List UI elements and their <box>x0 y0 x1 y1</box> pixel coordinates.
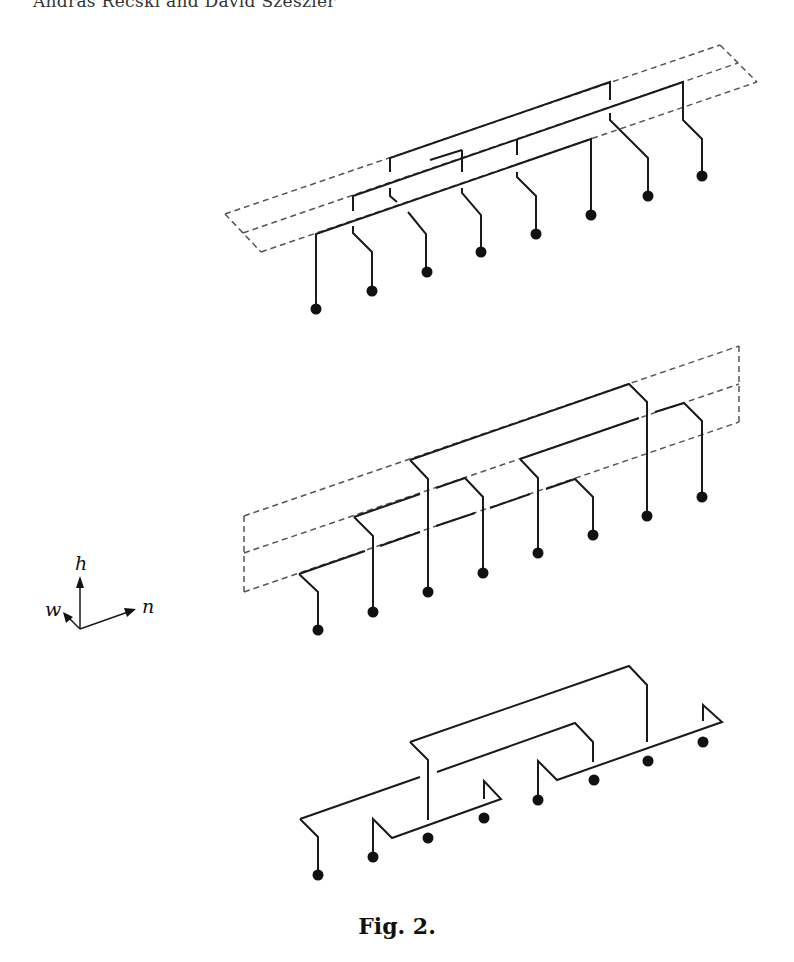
arrow-right-icon <box>124 608 136 617</box>
pin <box>423 833 434 844</box>
axis-label-n: n <box>142 595 154 617</box>
pin <box>586 210 597 221</box>
figure-caption: Fig. 2. <box>0 913 794 939</box>
figure-canvas: h w n <box>0 0 794 962</box>
pin <box>313 870 324 881</box>
pin <box>697 171 708 182</box>
pin <box>313 625 324 636</box>
arrow-up-icon <box>76 576 84 588</box>
pin <box>642 511 653 522</box>
bottom-layout <box>300 666 722 881</box>
pin <box>698 737 709 748</box>
pin <box>423 587 434 598</box>
pin <box>368 607 379 618</box>
pin <box>697 492 708 503</box>
axis-label-h: h <box>75 552 87 574</box>
axis-indicator: h w n <box>45 552 154 629</box>
middle-layout <box>244 346 739 636</box>
pin <box>533 795 544 806</box>
middle-dashed-box <box>244 346 739 592</box>
pin <box>478 568 489 579</box>
top-layout <box>225 45 757 315</box>
pin <box>588 530 599 541</box>
pin <box>533 548 544 559</box>
pin <box>589 775 600 786</box>
pin <box>422 267 433 278</box>
pin <box>311 304 322 315</box>
pin <box>367 286 378 297</box>
pin <box>643 756 654 767</box>
pin <box>476 247 487 258</box>
pin <box>479 813 490 824</box>
pin <box>368 852 379 863</box>
pin <box>531 229 542 240</box>
pin <box>643 191 654 202</box>
axis-label-w: w <box>45 598 61 620</box>
